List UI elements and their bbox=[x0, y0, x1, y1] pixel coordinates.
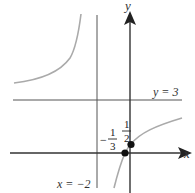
x-intercept-point bbox=[121, 149, 128, 156]
x-intercept-numerator: 1 bbox=[110, 126, 116, 138]
rational-function-graph: y x y = 3 x = −2 − 1 3 1 2 bbox=[0, 0, 195, 193]
x-intercept-minus: − bbox=[100, 133, 107, 147]
y-intercept-numerator: 1 bbox=[124, 118, 130, 130]
y-intercept-denominator: 2 bbox=[124, 132, 130, 144]
vertical-asymptote-label: x = −2 bbox=[56, 177, 91, 191]
y-axis-label: y bbox=[123, 0, 131, 13]
x-axis-label: x bbox=[183, 146, 190, 161]
horizontal-asymptote-label: y = 3 bbox=[152, 85, 178, 99]
x-intercept-denominator: 3 bbox=[110, 140, 116, 152]
curve-left-branch bbox=[14, 14, 81, 83]
